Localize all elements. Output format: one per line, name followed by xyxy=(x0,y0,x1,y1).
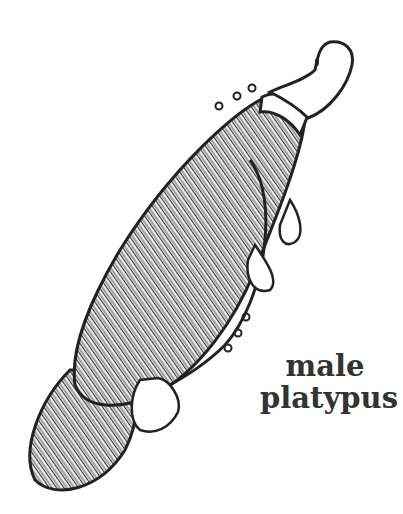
caption-line-2: platypus xyxy=(260,382,390,414)
mid-foot xyxy=(247,245,273,291)
platypus-drawing xyxy=(0,0,403,514)
hind-foot xyxy=(132,378,179,432)
caption-line-1: male xyxy=(260,350,390,382)
illustration-canvas: male platypus xyxy=(0,0,403,514)
front-foot xyxy=(280,200,301,244)
caption: male platypus xyxy=(260,350,390,414)
